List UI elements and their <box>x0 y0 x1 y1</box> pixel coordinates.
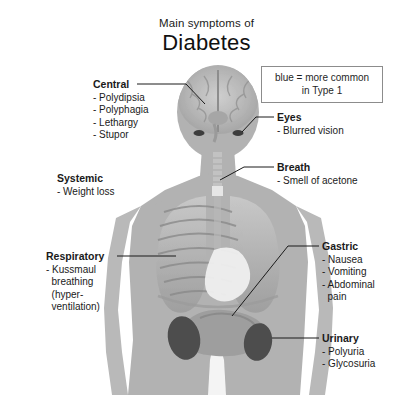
legend-line-1: blue = more common <box>267 71 377 84</box>
label-central-list: - Polydipsia - Polyphagia - Lethargy - S… <box>93 92 149 142</box>
list-item: - Abdominal <box>322 279 375 292</box>
trachea-region <box>212 152 223 196</box>
label-urinary-heading: Urinary <box>322 332 375 345</box>
label-breath: Breath - Smell of acetone <box>277 161 358 187</box>
chest-region <box>156 196 279 313</box>
list-item: (hyper- <box>46 289 104 302</box>
label-respiratory-heading: Respiratory <box>46 250 104 263</box>
legend-box: blue = more common in Type 1 <box>261 66 383 103</box>
list-item: - Polyphagia <box>93 104 149 117</box>
label-breath-list: - Smell of acetone <box>277 175 358 188</box>
diabetes-symptoms-diagram: Main symptoms of Diabetes blue = more co… <box>0 0 413 395</box>
label-urinary-list: - Polyuria - Glycosuria <box>322 346 375 371</box>
legend-line-2: in Type 1 <box>267 84 377 97</box>
list-item: breathing <box>46 276 104 289</box>
eye-left-marker <box>194 130 205 136</box>
list-item: - Stupor <box>93 129 149 142</box>
label-breath-heading: Breath <box>277 161 358 174</box>
label-systemic: Systemic - Weight loss <box>57 172 115 198</box>
label-systemic-list: - Weight loss <box>57 186 115 199</box>
label-respiratory: Respiratory - Kussmaul breathing (hyper-… <box>46 250 104 314</box>
list-item: - Nausea <box>322 254 375 267</box>
label-urinary: Urinary - Polyuria - Glycosuria <box>322 332 375 371</box>
list-item: - Vomiting <box>322 266 375 279</box>
list-item: - Polyuria <box>322 346 375 359</box>
list-item: - Kussmaul <box>46 264 104 277</box>
label-systemic-heading: Systemic <box>57 172 115 185</box>
list-item: - Polydipsia <box>93 92 149 105</box>
label-central-heading: Central <box>93 78 149 91</box>
list-item: - Lethargy <box>93 117 149 130</box>
label-eyes: Eyes - Blurred vision <box>277 111 344 137</box>
list-item: - Glycosuria <box>322 358 375 371</box>
eye-right-marker <box>233 130 244 136</box>
label-respiratory-list: - Kussmaul breathing (hyper- ventilation… <box>46 264 104 314</box>
list-item: ventilation) <box>46 301 104 314</box>
label-eyes-heading: Eyes <box>277 111 344 124</box>
label-gastric-heading: Gastric <box>322 240 375 253</box>
list-item: pain <box>322 291 375 304</box>
list-item: - Blurred vision <box>277 125 344 138</box>
label-gastric: Gastric - Nausea - Vomiting - Abdominal … <box>322 240 375 304</box>
label-gastric-list: - Nausea - Vomiting - Abdominal pain <box>322 254 375 304</box>
label-central: Central - Polydipsia - Polyphagia - Leth… <box>93 78 149 142</box>
list-item: - Weight loss <box>57 186 115 199</box>
list-item: - Smell of acetone <box>277 175 358 188</box>
label-eyes-list: - Blurred vision <box>277 125 344 138</box>
